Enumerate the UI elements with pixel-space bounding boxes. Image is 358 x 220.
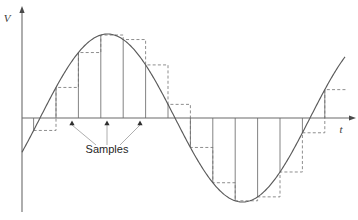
sampling-diagram-figure: Samples V t: [0, 0, 358, 220]
samples-label: Samples: [86, 143, 129, 155]
figure-background: [0, 0, 358, 220]
